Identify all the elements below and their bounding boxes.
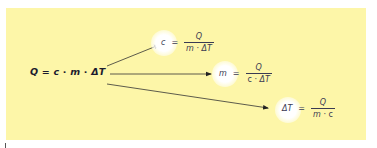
fraction: Q m · c <box>311 98 335 119</box>
arrow-to-delta-t <box>107 84 268 108</box>
denominator: m · ΔT <box>184 44 214 53</box>
denominator: m · c <box>311 110 335 119</box>
equals-sign: = <box>298 104 305 113</box>
formula-lhs: m <box>219 69 227 78</box>
fraction: Q m · ΔT <box>184 32 214 53</box>
term-c: c <box>53 66 59 77</box>
dot-operator: · <box>63 66 67 77</box>
formula-mass: m = Q c · ΔT <box>219 63 272 84</box>
fraction: Q c · ΔT <box>246 63 272 84</box>
fraction-bar <box>246 73 272 74</box>
fraction-bar <box>184 42 214 43</box>
numerator: Q <box>254 63 264 72</box>
formula-lhs: c <box>161 38 165 47</box>
formula-specific-heat: c = Q m · ΔT <box>161 32 214 53</box>
equals-sign: = <box>171 38 178 47</box>
formula-lhs: ΔT <box>282 104 292 113</box>
dot-operator: · <box>84 66 88 77</box>
heat-symbol: Q <box>30 66 38 77</box>
formula-temperature-change: ΔT = Q m · c <box>282 98 335 119</box>
fraction-bar <box>311 108 335 109</box>
equals-sign: = <box>42 66 50 77</box>
equals-sign: = <box>233 69 240 78</box>
term-delta-t: ΔT <box>91 66 105 77</box>
main-formula: Q = c · m · ΔT <box>30 66 105 77</box>
denominator: c · ΔT <box>246 75 272 84</box>
numerator: Q <box>318 98 328 107</box>
numerator: Q <box>194 32 204 41</box>
term-m: m <box>70 66 80 77</box>
